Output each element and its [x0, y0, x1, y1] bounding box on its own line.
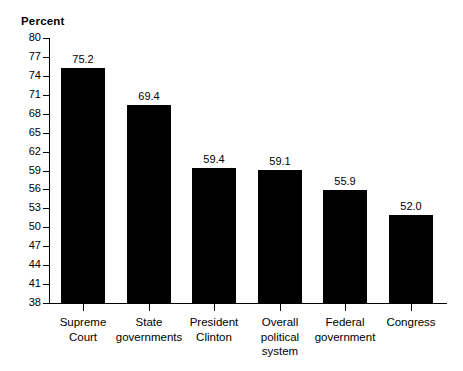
y-axis-tick: [43, 114, 50, 115]
y-axis-tick-label: 41: [21, 278, 41, 289]
x-axis-tick: [280, 304, 281, 311]
bar-value-label: 69.4: [119, 90, 179, 102]
y-axis-tick-label: 74: [21, 70, 41, 81]
bar: [323, 190, 367, 303]
y-axis-tick: [43, 189, 50, 190]
y-axis-tick: [43, 152, 50, 153]
y-axis-tick: [43, 57, 50, 58]
x-axis-tick: [345, 304, 346, 311]
x-axis-tick: [149, 304, 150, 311]
y-axis-tick-label: 47: [21, 240, 41, 251]
bar: [258, 170, 302, 303]
x-axis-tick: [214, 304, 215, 311]
y-axis-tick-label: 62: [21, 146, 41, 157]
y-axis-tick-label: 77: [21, 51, 41, 62]
y-axis-tick-label: 65: [21, 127, 41, 138]
y-axis-tick: [43, 265, 50, 266]
y-axis-tick-label: 44: [21, 259, 41, 270]
y-axis-tick: [43, 284, 50, 285]
y-axis-tick: [43, 38, 50, 39]
y-axis-tick: [43, 133, 50, 134]
bar: [192, 168, 236, 303]
bar: [61, 68, 105, 303]
chart-title: Percent: [21, 15, 65, 28]
y-axis-tick-label: 59: [21, 165, 41, 176]
bar-value-label: 59.1: [250, 155, 310, 167]
y-axis-tick: [43, 95, 50, 96]
bar-value-label: 75.2: [53, 53, 113, 65]
y-axis-tick: [43, 246, 50, 247]
y-axis-tick: [43, 208, 50, 209]
x-axis-line: [49, 303, 447, 304]
y-axis-tick: [43, 76, 50, 77]
y-axis-tick-label: 68: [21, 108, 41, 119]
y-axis-tick-label: 80: [21, 32, 41, 43]
y-axis-tick-label: 71: [21, 89, 41, 100]
bar-value-label: 55.9: [315, 175, 375, 187]
x-axis-category-label: Congress: [371, 315, 451, 330]
bar-chart: Percent 807774716865625956535047444138 7…: [0, 0, 463, 371]
x-axis-tick: [411, 304, 412, 311]
y-axis-tick-label: 56: [21, 183, 41, 194]
y-axis-tick: [43, 171, 50, 172]
y-axis-tick-label: 50: [21, 221, 41, 232]
y-axis-tick-label: 53: [21, 202, 41, 213]
y-axis-tick-label: 38: [21, 297, 41, 308]
bar-value-label: 52.0: [381, 200, 441, 212]
x-axis-tick: [83, 304, 84, 311]
bar-value-label: 59.4: [184, 153, 244, 165]
y-axis-tick: [43, 227, 50, 228]
bar: [389, 215, 433, 303]
y-axis-tick: [43, 303, 50, 304]
bar: [127, 105, 171, 303]
